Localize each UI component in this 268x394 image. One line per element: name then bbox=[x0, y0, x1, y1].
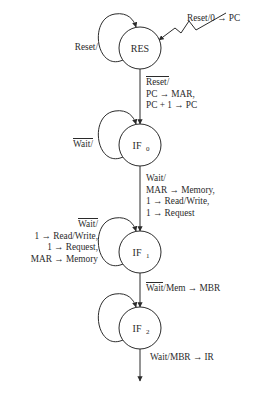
res-self-loop-line-0: Reset/ bbox=[75, 42, 98, 52]
edge-if1-to-if2-line-0: Wait/Mem → MBR bbox=[146, 283, 220, 293]
edge-res-to-if0-line-1: PC → MAR, bbox=[146, 89, 195, 99]
svg-text:IF: IF bbox=[133, 323, 142, 334]
state-node-if2[interactable]: IF 2 bbox=[119, 307, 161, 349]
state-node-res[interactable]: RES bbox=[119, 27, 161, 69]
svg-text:IF: IF bbox=[133, 140, 142, 151]
if1-self-loop-line-0: Wait/ bbox=[78, 218, 98, 230]
svg-text:2: 2 bbox=[146, 328, 150, 336]
edge-if0-to-if1-line-0: Wait/ bbox=[146, 173, 166, 183]
if1-self-loop-line-1: 1 → Read/Write, bbox=[35, 231, 98, 241]
if1-self-loop-line-3: MAR → Memory bbox=[31, 254, 98, 264]
state-node-if1[interactable]: IF 1 bbox=[119, 231, 161, 273]
if1-self-loop-line-2: 1 → Request, bbox=[47, 242, 98, 252]
res-self-loop-label: Reset/ bbox=[50, 42, 98, 54]
if1-self-loop-label: Wait/ 1 → Read/Write, 1 → Request, MAR →… bbox=[8, 218, 98, 265]
svg-text:RES: RES bbox=[131, 43, 149, 54]
edge-if0-to-if1-label: Wait/ MAR → Memory, 1 → Read/Write, 1 → … bbox=[146, 173, 215, 219]
diagram-canvas: RES IF 0 IF 1 bbox=[0, 0, 268, 394]
svg-text:1: 1 bbox=[146, 252, 150, 260]
edge-if2-to-exit-line-0: Wait/MBR → IR bbox=[150, 352, 214, 362]
edge-if1-to-if2-label: Wait/Mem → MBR bbox=[146, 282, 220, 295]
edge-if0-to-if1-line-1: MAR → Memory, bbox=[146, 185, 215, 195]
reset-entry-label: Reset/0 → PC bbox=[187, 13, 240, 25]
edge-res-to-if0-line-2: PC + 1 → PC bbox=[146, 100, 197, 110]
edge-if0-to-if1-line-3: 1 → Request bbox=[146, 208, 195, 218]
svg-text:IF: IF bbox=[133, 247, 142, 258]
edge-if0-to-if1-line-2: 1 → Read/Write, bbox=[146, 196, 209, 206]
if0-self-loop-line-0: Wait/ bbox=[73, 138, 93, 150]
state-diagram: RES IF 0 IF 1 bbox=[0, 0, 268, 394]
if0-self-loop-label: Wait/ bbox=[45, 138, 93, 151]
edge-if2-to-exit-label: Wait/MBR → IR bbox=[150, 352, 214, 364]
edge-res-to-if0-line-0: Reset/ bbox=[146, 76, 169, 88]
reset-entry-line-0: Reset/0 → PC bbox=[187, 13, 240, 23]
svg-text:0: 0 bbox=[146, 145, 150, 153]
edge-res-to-if0-label: Reset/ PC → MAR, PC + 1 → PC bbox=[146, 76, 197, 112]
state-node-if0[interactable]: IF 0 bbox=[119, 124, 161, 166]
